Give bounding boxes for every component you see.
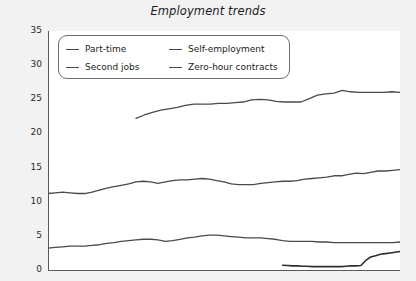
- legend-item-second-jobs[interactable]: Second jobs: [66, 60, 139, 74]
- legend-item-self-employment[interactable]: Self-employment: [169, 42, 265, 56]
- chart-title: Employment trends: [0, 4, 416, 18]
- series-line-zero-hour-contracts: [283, 252, 400, 267]
- legend-label: Zero-hour contracts: [188, 62, 278, 72]
- legend-item-zero-hour-contracts[interactable]: Zero-hour contracts: [169, 60, 278, 74]
- legend-line-icon: [169, 49, 182, 50]
- legend-label: Part-time: [85, 44, 126, 54]
- y-tick-label: 10: [20, 196, 42, 206]
- y-axis-tick-labels: 05101520253035: [16, 31, 42, 271]
- legend-line-icon: [66, 67, 79, 68]
- y-tick-label: 25: [20, 93, 42, 103]
- legend-label: Second jobs: [85, 62, 139, 72]
- legend-item-part-time[interactable]: Part-time: [66, 42, 126, 56]
- y-tick-label: 20: [20, 127, 42, 137]
- y-tick-label: 0: [20, 264, 42, 274]
- page-bottom-margin: [0, 277, 416, 281]
- legend-line-icon: [66, 49, 79, 50]
- chart-legend: Part-time Self-employment Second jobs Ze…: [58, 35, 290, 79]
- series-line-second-jobs: [48, 235, 400, 248]
- series-line-part-time: [136, 90, 400, 118]
- legend-label: Self-employment: [188, 44, 265, 54]
- chart-figure: Employment trends 05101520253035 Percent…: [0, 0, 416, 281]
- y-tick-label: 30: [20, 59, 42, 69]
- series-line-self-employment: [48, 170, 400, 194]
- legend-line-icon: [169, 67, 182, 68]
- page-right-margin: [400, 0, 416, 281]
- y-tick-label: 15: [20, 162, 42, 172]
- y-tick-label: 35: [20, 25, 42, 35]
- y-tick-label: 5: [20, 230, 42, 240]
